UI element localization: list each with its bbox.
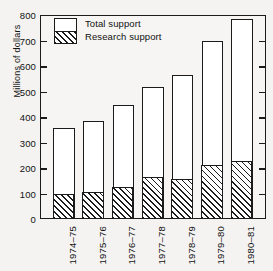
x-axis-tick-label: 1978–79 [186,226,197,264]
x-axis-tick-label: 1977–78 [156,226,167,264]
plot-area [40,15,266,219]
bar-research-1977–78 [142,177,163,219]
x-axis-tick-label: 1980–81 [245,226,256,264]
y-tick-mark-right-700 [259,41,265,43]
y-tick-mark-right-300 [259,143,265,145]
y-tick-mark-right-600 [259,66,265,68]
y-axis-tick-300: 300 [0,137,36,148]
y-tick-mark-left-200 [41,168,47,170]
y-tick-mark-right-400 [259,117,265,119]
bar-total-1974–75 [53,128,74,218]
bar-research-1976–77 [112,187,133,219]
bar-research-1978–79 [171,179,192,218]
bar-total-1979–80 [202,41,223,218]
y-tick-mark-left-100 [41,194,47,196]
bar-research-1974–75 [53,194,74,219]
y-tick-mark-left-600 [41,66,47,68]
bar-total-1978–79 [172,75,193,218]
y-axis-tick-200: 200 [0,163,36,174]
y-axis-tick-600: 600 [0,61,36,72]
y-axis-tick-0: 0 [0,214,36,225]
y-tick-mark-left-300 [41,143,47,145]
y-tick-mark-left-500 [41,92,47,94]
bar-total-1977–78 [142,87,163,218]
bar-research-1975–76 [82,192,103,219]
bar-research-1980–81 [231,161,252,218]
y-tick-mark-right-200 [259,168,265,170]
bar-research-1979–80 [201,165,222,218]
y-axis-tick-800: 800 [0,10,36,21]
y-tick-mark-left-400 [41,117,47,119]
bar-total-1976–77 [113,105,134,218]
y-axis-tick-labels: 8007006005004003002001000 [0,0,36,271]
y-axis-tick-100: 100 [0,188,36,199]
legend-label-total: Total support [85,18,141,29]
bar-total-1980–81 [231,19,252,218]
x-axis-tick-label: 1974–75 [67,226,78,264]
legend-label-research: Research support [85,31,162,42]
y-tick-mark-right-500 [259,92,265,94]
x-axis-tick-label: 1976–77 [126,226,137,264]
bar-total-1975–76 [83,121,104,218]
x-axis-tick-label: 1979–80 [215,226,226,264]
y-axis-tick-700: 700 [0,35,36,46]
y-tick-mark-right-100 [259,194,265,196]
legend-swatch-total [54,18,77,44]
y-axis-tick-500: 500 [0,86,36,97]
y-tick-mark-left-700 [41,41,47,43]
legend-swatch-research [55,31,76,43]
plot-inner [41,16,265,218]
y-axis-tick-400: 400 [0,112,36,123]
x-axis-tick-label: 1975–76 [97,226,108,264]
bar-chart: Millions of dollars 80070060050040030020… [0,0,273,271]
